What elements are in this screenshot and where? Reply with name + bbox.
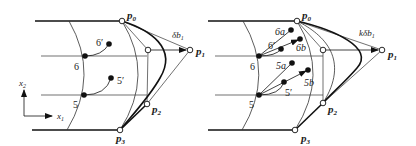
label-p0: p0 [301, 9, 312, 23]
right-panel: p0 p1 p2 p3 kδb1 6 5 6′ 5′ 6a 6b 5a 5b [208, 9, 397, 146]
label-node-6a: 6a [275, 26, 285, 37]
label-p2: p2 [151, 103, 162, 117]
label-p1: p1 [195, 45, 205, 59]
label-p1: p1 [387, 48, 397, 62]
left-panel: p0 p1 p2 p3 δb1 6 5 6′ 5′ x2 x1 [18, 9, 205, 146]
label-x2: x2 [18, 78, 26, 89]
trajectory-5 [84, 78, 111, 95]
control-point-p2 [320, 100, 326, 106]
label-delta-b1: δb1 [172, 30, 184, 41]
control-point-p1 [187, 47, 193, 53]
label-node-6-prime: 6′ [268, 40, 275, 51]
node-6 [82, 53, 88, 59]
label-p3: p3 [300, 132, 311, 146]
node-6-prime [278, 46, 284, 52]
node-5-prime [108, 75, 114, 81]
label-x1: x1 [56, 111, 64, 122]
control-line [147, 50, 190, 104]
label-node-5a: 5a [276, 60, 286, 71]
bezier-diagram: p0 p1 p2 p3 δb1 6 5 6′ 5′ x2 x1 [0, 0, 416, 146]
node-6b [297, 36, 303, 42]
control-line [323, 50, 382, 103]
control-point-p0 [119, 18, 125, 24]
node-5b [305, 67, 311, 73]
intermediate-curve [297, 21, 335, 103]
node-6 [256, 53, 262, 59]
label-node-5b: 5b [304, 77, 314, 88]
control-point-original-p1 [320, 47, 326, 53]
control-point-p3 [292, 127, 298, 133]
section-arc [67, 21, 84, 130]
control-point-p2 [144, 101, 150, 107]
label-k-delta-b1: kδb1 [359, 28, 375, 39]
label-node-6b: 6b [296, 42, 306, 53]
label-p3: p3 [115, 132, 126, 146]
control-point-p1 [379, 47, 385, 53]
section-arc [242, 21, 259, 130]
label-node-6: 6 [74, 61, 79, 72]
label-node-6: 6 [250, 61, 255, 72]
label-node-5: 5 [73, 99, 78, 110]
node-5 [81, 92, 87, 98]
control-line [295, 103, 323, 130]
node-5 [256, 92, 262, 98]
label-node-5-prime: 5′ [285, 87, 292, 98]
label-p0: p0 [126, 9, 137, 23]
label-node-5: 5 [249, 99, 254, 110]
label-node-5-prime: 5′ [117, 75, 124, 86]
node-5a [289, 60, 295, 66]
node-6-prime [106, 41, 112, 47]
node-6a [288, 27, 294, 33]
label-p2: p2 [327, 103, 338, 117]
control-point-original-p1 [145, 47, 151, 53]
node-5-prime [281, 79, 287, 85]
control-point-p0 [294, 18, 300, 24]
label-node-6-prime: 6′ [96, 37, 103, 48]
